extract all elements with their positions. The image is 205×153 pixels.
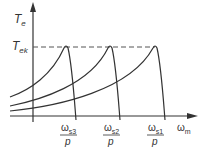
svg-text:p: p	[151, 136, 158, 147]
y-axis-label: Te	[14, 12, 26, 28]
x-axis-label: ωm	[177, 122, 191, 135]
svg-text:ωs3: ωs3	[61, 122, 76, 135]
svg-text:p: p	[64, 136, 71, 147]
torque-curve-s3	[10, 46, 76, 120]
svg-text:ωs2: ωs2	[104, 122, 119, 135]
tick-label-s2: ωs2 p	[103, 122, 120, 147]
svg-text:p: p	[107, 136, 114, 147]
y-axis-arrow-icon	[30, 2, 36, 12]
tick-label-s1: ωs1 p	[147, 122, 164, 147]
x-axis-arrow-icon	[187, 113, 198, 119]
tick-label-s3: ωs3 p	[60, 122, 77, 147]
svg-text:ωs1: ωs1	[148, 122, 163, 135]
torque-speed-diagram: Te Tek ωs3 p ωs2 p ωs1 p ωm	[0, 0, 205, 153]
peak-torque-label: Tek	[12, 39, 29, 55]
